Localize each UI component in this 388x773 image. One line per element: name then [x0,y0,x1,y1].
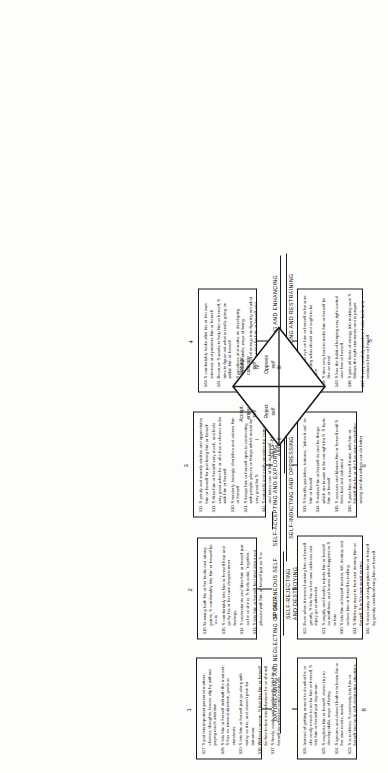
item-text: S lets him or herself murder, kill, dest… [339,540,350,625]
quadrant-label-3: Oppress self [263,346,276,382]
list-item: 322.Even when it means harming him or he… [302,540,319,634]
item-number: 331. [352,625,358,634]
item-text: Even when it means harming him or hersel… [302,542,318,625]
quadrant-roman-1: I [254,439,260,440]
item-text: S gently and warmly strokes and apprecia… [198,418,209,503]
item-number: 316. [202,625,208,634]
item-text: S angrily and harshly rejects him or her… [321,541,337,625]
item-number: 334. [315,503,321,512]
list-item: 311.S likes him or herself very much, an… [211,416,228,512]
list-item: 320.S lets him or herself just go along … [238,662,255,754]
item-number: 311. [211,503,217,512]
box-label-7: 7 [367,586,373,589]
box-label-4: 4 [188,340,194,343]
connector-line [257,588,272,589]
item-text: S puts all kinds of energy into making s… [347,293,358,378]
connector-line [262,708,272,709]
item-number: 340. [334,378,340,387]
item-text: Because S wants to help him or herself, … [216,298,232,378]
item-number: 317. [270,745,276,754]
box-label-3: 3 [183,464,189,467]
item-text: S likes him or herself very much, and fe… [211,416,227,503]
content-box-1: 327.S just lets important personal matte… [196,657,262,759]
connector-line [272,511,273,529]
item-number: 343. [203,378,209,387]
item-number: 328. [220,745,226,754]
list-item: 327.S just lets important personal matte… [201,662,218,754]
item-number: 310. [230,503,236,512]
quadrant-roman-3: III [276,365,282,369]
list-item: 315.S comfortably lets him or herself he… [221,542,238,634]
diagram-canvas: 327.S just lets important personal matte… [0,0,388,773]
list-item: 330.S lets him or herself murder, kill, … [339,540,350,634]
list-item: 328.S lets him or herself drift with the… [220,662,237,754]
content-box-8: 326.Instead of getting around to do what… [297,657,357,759]
item-number: 325. [321,745,327,754]
item-number: 342. [261,503,267,512]
item-text: Instead of getting around to do what he … [302,664,318,745]
quadrant-label-2: Reject self [263,393,276,429]
item-text: Without concern, S just lets him or hers… [257,664,268,745]
connector-line [266,464,273,465]
connector-line [292,588,298,589]
content-box-2: 316.Knowing both his or her faults and s… [197,537,257,639]
item-number: 321. [321,625,327,634]
item-text: Knowing both his or her faults and stron… [202,544,218,625]
box-label-2: 2 [187,588,193,591]
item-number: 344. [216,378,222,387]
item-list-7: 322.Even when it means harming him or he… [302,540,377,634]
item-number: 332. [365,625,371,634]
item-number: 312. [198,503,204,512]
item-number: 320. [238,745,244,754]
list-item: 312.S gently and warmly strokes and appr… [198,416,209,512]
item-number: 323. [347,745,353,754]
item-number: 341. [243,503,249,512]
box-label-5: 5 [367,339,373,342]
item-text: S accuses and blames him or herself unti… [334,419,345,503]
item-number: 318. [257,745,263,754]
list-item: 340.S has the habit of keeping very tigh… [334,293,345,387]
list-item: 335.S accuses and blames him or herself … [334,416,345,512]
box-label-8: 8 [361,708,367,711]
connector-line [292,464,298,465]
item-list-8: 326.Instead of getting around to do what… [302,662,358,754]
item-number: 333. [302,503,308,512]
item-text: S lets him or herself just go along with… [238,673,254,745]
list-item: 326.Instead of getting around to do what… [302,662,319,754]
item-number: 338. [347,378,353,387]
content-box-7: 322.Even when it means harming him or he… [297,535,363,639]
item-text: S tears away at and empties him or herse… [365,544,376,625]
list-item: 314.S understands and likes him or herse… [239,542,250,634]
item-text: S lets him or herself feel glad about an… [252,549,263,625]
list-item: 325.S neglects him or herself, doesn't t… [321,662,332,754]
item-text: S puts him or herself down, tells him or… [347,423,363,503]
list-item: 321.S angrily and harshly rejects him or… [321,540,338,634]
group-title-rejecting: SELF-REJECTING AND DESTROYING [283,551,299,635]
item-text: S has the habit of keeping very tight co… [334,296,345,378]
list-item: 316.Knowing both his or her faults and s… [202,542,219,634]
quadrant-label-1: Accept, enjoy self [238,394,258,432]
box-label-1: 1 [186,708,192,711]
item-number: 322. [302,625,308,634]
item-number: 314. [239,625,245,634]
item-number: 313. [252,625,258,634]
connector-line [292,708,298,709]
item-number: 324. [334,745,340,754]
item-number: 335. [334,503,340,512]
item-text: S is reckless; S carelessly lets him or … [347,663,358,745]
item-number: 336. [347,503,353,512]
item-number: 315. [221,625,227,634]
list-item: 323.S is reckless; S carelessly lets him… [347,662,358,754]
quadrant-roman-4: IV [254,364,260,369]
item-text: S just lets important personal matters, … [201,669,217,745]
item-text: S thinks up ways to hurt and destroy him… [352,543,363,625]
item-list-2: 316.Knowing both his or her faults and s… [202,542,264,634]
list-item: 338.S puts all kinds of energy into maki… [347,293,358,387]
item-number: 330. [339,625,345,634]
item-text: S understands and likes him or herself j… [239,544,250,625]
quadrant-roman-2: II [276,437,282,440]
item-text: S lets him or herself drift with the mom… [220,665,236,745]
list-item: 331.S thinks up ways to hurt and destroy… [352,540,363,634]
list-item: 343.S comfortably looks after his or her… [203,293,214,387]
box-label-6: 6 [361,464,367,467]
